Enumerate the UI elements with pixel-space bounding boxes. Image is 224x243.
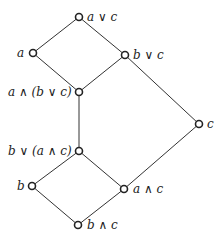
edge bbox=[79, 55, 125, 92]
node-b-and-c bbox=[75, 222, 82, 229]
label-c: c bbox=[207, 117, 214, 131]
node-c bbox=[196, 121, 203, 128]
label-b-or-a-and-c: b ∨ (a ∧ c) bbox=[8, 144, 72, 158]
edge bbox=[125, 55, 199, 124]
label-a-or-c: a ∨ c bbox=[87, 10, 117, 24]
edge bbox=[33, 17, 79, 53]
node-b bbox=[29, 183, 36, 190]
node-a-or-c bbox=[76, 14, 83, 21]
node-b-or-a-and-c bbox=[76, 148, 83, 155]
lattice-diagram bbox=[0, 0, 224, 243]
label-a-and-c: a ∧ c bbox=[133, 182, 163, 196]
label-b-and-c: b ∧ c bbox=[87, 218, 118, 232]
node-a-and-b-or-c bbox=[76, 89, 83, 96]
label-a: a bbox=[17, 46, 24, 60]
label-b: b bbox=[17, 179, 25, 193]
edge bbox=[79, 151, 124, 189]
label-b-or-c: b ∨ c bbox=[133, 48, 164, 62]
node-a bbox=[30, 50, 37, 57]
edge bbox=[32, 186, 78, 225]
node-b-or-c bbox=[122, 52, 129, 59]
edge bbox=[124, 124, 199, 189]
edges bbox=[32, 17, 199, 225]
label-a-and-b-or-c: a ∧ (b ∨ c) bbox=[8, 85, 72, 99]
node-a-and-c bbox=[121, 186, 128, 193]
